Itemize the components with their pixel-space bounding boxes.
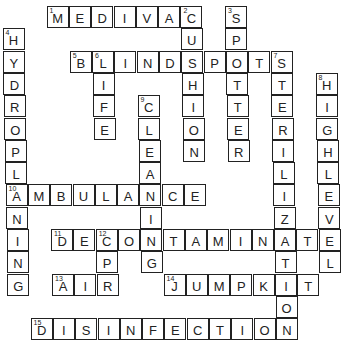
crossword-cell[interactable]: C2 <box>180 6 202 28</box>
crossword-cell[interactable]: I <box>316 95 338 117</box>
crossword-cell[interactable]: E <box>319 229 341 251</box>
crossword-cell[interactable]: S <box>75 318 97 340</box>
crossword-cell[interactable]: L <box>317 162 339 184</box>
crossword-cell[interactable]: T <box>275 251 297 273</box>
crossword-cell[interactable]: P <box>204 51 226 73</box>
crossword-cell[interactable]: B <box>50 184 72 206</box>
crossword-cell[interactable]: A <box>274 229 296 251</box>
crossword-cell[interactable]: V <box>136 6 158 28</box>
crossword-cell[interactable]: D <box>3 73 25 95</box>
crossword-cell[interactable]: G <box>316 118 338 140</box>
crossword-cell[interactable]: U <box>73 184 95 206</box>
crossword-cell[interactable]: E <box>271 95 293 117</box>
crossword-cell[interactable]: I <box>231 318 253 340</box>
crossword-cell[interactable]: N <box>252 229 274 251</box>
crossword-cell[interactable]: H4 <box>3 28 25 50</box>
crossword-cell[interactable]: L <box>273 162 295 184</box>
crossword-cell[interactable]: T <box>227 95 249 117</box>
crossword-cell[interactable]: O <box>183 118 205 140</box>
crossword-cell[interactable]: I <box>140 207 162 229</box>
crossword-cell[interactable]: F <box>93 95 115 117</box>
crossword-cell[interactable]: E <box>227 118 249 140</box>
crossword-cell[interactable]: T <box>248 51 270 73</box>
crossword-cell[interactable]: U <box>186 274 208 296</box>
crossword-cell[interactable]: S <box>181 51 203 73</box>
crossword-cell[interactable]: N <box>7 251 29 273</box>
crossword-cell[interactable]: O <box>4 118 26 140</box>
crossword-cell[interactable]: A10 <box>6 184 28 206</box>
crossword-cell[interactable]: I <box>272 140 294 162</box>
crossword-cell[interactable]: I <box>53 318 75 340</box>
crossword-cell[interactable]: I <box>182 95 204 117</box>
crossword-cell[interactable]: K <box>253 274 275 296</box>
crossword-cell[interactable]: G <box>7 274 29 296</box>
crossword-cell[interactable]: T <box>226 73 248 95</box>
crossword-cell[interactable]: O <box>226 51 248 73</box>
crossword-cell[interactable]: M1 <box>47 6 69 28</box>
crossword-cell[interactable]: P <box>225 28 247 50</box>
crossword-cell[interactable]: H <box>317 140 339 162</box>
crossword-cell[interactable]: D <box>159 51 181 73</box>
crossword-cell[interactable]: E <box>94 118 116 140</box>
crossword-cell[interactable]: T <box>271 73 293 95</box>
crossword-cell[interactable]: N <box>276 318 298 340</box>
crossword-cell[interactable]: L <box>138 118 160 140</box>
crossword-cell[interactable]: C9 <box>138 95 160 117</box>
crossword-cell[interactable]: D <box>91 6 113 28</box>
crossword-cell[interactable]: A <box>117 184 139 206</box>
crossword-cell[interactable]: O <box>118 229 140 251</box>
crossword-cell[interactable]: C12 <box>96 229 118 251</box>
crossword-cell[interactable]: A <box>185 229 207 251</box>
crossword-cell[interactable]: I <box>93 73 115 95</box>
crossword-cell[interactable]: H8 <box>316 73 338 95</box>
crossword-cell[interactable]: L <box>95 184 117 206</box>
crossword-cell[interactable]: N <box>140 229 162 251</box>
crossword-cell[interactable]: G <box>141 251 163 273</box>
crossword-cell[interactable]: H <box>182 73 204 95</box>
crossword-cell[interactable]: I <box>114 51 136 73</box>
crossword-cell[interactable]: Z <box>274 207 296 229</box>
crossword-cell[interactable]: M <box>207 229 229 251</box>
crossword-cell[interactable]: B5 <box>70 51 92 73</box>
crossword-cell[interactable]: I <box>7 229 29 251</box>
crossword-cell[interactable]: R <box>228 140 250 162</box>
crossword-cell[interactable]: N <box>139 184 161 206</box>
crossword-cell[interactable]: E <box>318 184 340 206</box>
crossword-cell[interactable]: Y <box>3 51 25 73</box>
crossword-cell[interactable]: R <box>4 95 26 117</box>
crossword-cell[interactable]: L <box>319 251 341 273</box>
crossword-cell[interactable]: M <box>28 184 50 206</box>
crossword-cell[interactable]: N <box>183 140 205 162</box>
crossword-cell[interactable]: S7 <box>271 51 293 73</box>
crossword-cell[interactable]: O <box>254 318 276 340</box>
crossword-cell[interactable]: V <box>318 207 340 229</box>
crossword-cell[interactable]: R <box>272 118 294 140</box>
crossword-cell[interactable]: U <box>181 28 203 50</box>
crossword-cell[interactable]: A <box>139 162 161 184</box>
crossword-cell[interactable]: I <box>98 318 120 340</box>
crossword-cell[interactable]: A <box>158 6 180 28</box>
crossword-cell[interactable]: C <box>187 318 209 340</box>
crossword-cell[interactable]: D15 <box>31 318 53 340</box>
crossword-cell[interactable]: E <box>184 184 206 206</box>
crossword-cell[interactable]: N <box>120 318 142 340</box>
crossword-cell[interactable]: T <box>296 229 318 251</box>
crossword-cell[interactable]: P <box>5 140 27 162</box>
crossword-cell[interactable]: F <box>142 318 164 340</box>
crossword-cell[interactable]: N <box>6 207 28 229</box>
crossword-cell[interactable]: A13 <box>52 274 74 296</box>
crossword-cell[interactable]: P <box>96 251 118 273</box>
crossword-cell[interactable]: O <box>276 296 298 318</box>
crossword-cell[interactable]: I <box>114 6 136 28</box>
crossword-cell[interactable]: I <box>74 274 96 296</box>
crossword-cell[interactable]: J14 <box>164 274 186 296</box>
crossword-cell[interactable]: T <box>163 229 185 251</box>
crossword-cell[interactable]: D11 <box>51 229 73 251</box>
crossword-cell[interactable]: L <box>5 162 27 184</box>
crossword-cell[interactable]: S3 <box>225 6 247 28</box>
crossword-cell[interactable]: C <box>162 184 184 206</box>
crossword-cell[interactable]: N <box>137 51 159 73</box>
crossword-cell[interactable]: E <box>139 140 161 162</box>
crossword-cell[interactable]: I <box>273 184 295 206</box>
crossword-cell[interactable]: E <box>69 6 91 28</box>
